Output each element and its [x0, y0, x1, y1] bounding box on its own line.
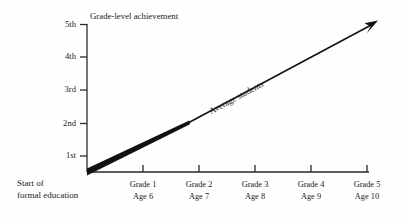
x-tick-label-grade-5-line2: Age 10: [340, 192, 394, 202]
x-tick-label-grade-1-line1: Grade 1: [116, 180, 170, 190]
y-tick-label-2nd: 2nd: [50, 118, 76, 128]
y-tick-label-5th: 5th: [50, 19, 76, 29]
x-tick-label-grade-3-line1: Grade 3: [228, 180, 282, 190]
x-tick-label-grade-2-line1: Grade 2: [172, 180, 226, 190]
x-tick-label-grade-4-line2: Age 9: [284, 192, 338, 202]
page-title: Grade-level achievement: [90, 11, 178, 21]
x-tick-label-grade-5-line1: Grade 5: [340, 180, 394, 190]
y-tick-label-3rd: 3rd: [50, 84, 76, 94]
x-tick-label-grade-4-line1: Grade 4: [284, 180, 338, 190]
x-tick-label-grade-3-line2: Age 8: [228, 192, 282, 202]
origin-caption-line1: Start of: [17, 177, 44, 189]
x-tick-label-grade-2-line2: Age 7: [172, 192, 226, 202]
y-tick-label-1st: 1st: [50, 150, 76, 160]
x-tick-label-grade-1-line2: Age 6: [116, 192, 170, 202]
y-tick-label-4th: 4th: [50, 51, 76, 61]
grade-level-achievement-chart: Grade-level achievement 5th 4th 3rd 2nd …: [0, 0, 402, 222]
origin-caption-line2: formal education: [17, 189, 78, 201]
trend-line-emphasis-segment: [87, 121, 190, 176]
